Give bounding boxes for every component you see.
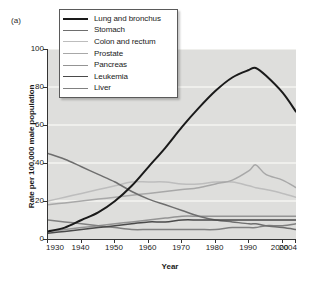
legend-swatch-icon [63, 41, 88, 42]
legend-label: Colon and rectum [94, 38, 156, 46]
series-line [48, 165, 296, 205]
legend-swatch-icon [63, 65, 88, 66]
legend-label: Prostate [94, 50, 123, 58]
y-tick-label: 60 [18, 120, 44, 129]
y-tick-label: 80 [18, 82, 44, 91]
x-tick-label: 1990 [239, 243, 257, 252]
legend-item: Pancreas [63, 59, 173, 71]
y-axis-tick-labels: 020406080100 [14, 0, 44, 283]
legend-swatch-icon [63, 76, 88, 77]
x-axis-title: Year [45, 262, 295, 271]
legend-item: Leukemia [63, 71, 173, 83]
legend-swatch-icon [63, 88, 88, 89]
x-tick-label: 2004 [279, 243, 297, 252]
legend-label: Liver [94, 84, 111, 92]
legend-label: Pancreas [94, 61, 127, 69]
y-tick-label: 100 [18, 44, 44, 53]
y-tick-label: 0 [18, 234, 44, 243]
legend-item: Prostate [63, 48, 173, 60]
y-tick-label: 20 [18, 196, 44, 205]
x-tick-label: 1970 [172, 243, 190, 252]
figure-panel-a: (a) Rate per 100,000 male population Yea… [0, 0, 318, 283]
legend-label: Lung and bronchus [94, 15, 161, 23]
legend-item: Stomach [63, 25, 173, 37]
legend-label: Stomach [94, 26, 125, 34]
x-tick-label: 1980 [206, 243, 224, 252]
x-tick-label: 1950 [105, 243, 123, 252]
legend-item: Colon and rectum [63, 36, 173, 48]
legend-swatch-icon [63, 53, 88, 54]
legend-label: Leukemia [94, 73, 128, 81]
legend-item: Lung and bronchus [63, 13, 173, 25]
x-tick-label: 1960 [139, 243, 157, 252]
legend-swatch-icon [63, 18, 88, 20]
x-tick-label: 1930 [46, 243, 64, 252]
legend-swatch-icon [63, 30, 88, 31]
legend-item: Liver [63, 83, 173, 95]
y-tick-label: 40 [18, 158, 44, 167]
x-tick-label: 1940 [72, 243, 90, 252]
chart-legend: Lung and bronchusStomachColon and rectum… [59, 9, 178, 98]
